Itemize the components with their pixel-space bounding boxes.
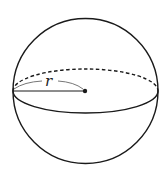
radius-label: r [45, 72, 53, 90]
center-point [83, 89, 87, 93]
equator-front [13, 91, 158, 113]
sphere-diagram: r [0, 0, 168, 182]
equator-back-dashed [13, 69, 158, 91]
